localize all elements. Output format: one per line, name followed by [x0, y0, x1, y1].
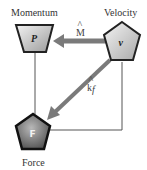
edge-v-f-elbow-line	[50, 62, 122, 130]
momentum-label: Momentum	[11, 7, 58, 18]
node-momentum-p[interactable]: P	[16, 25, 53, 52]
node-force-f[interactable]: F	[16, 114, 50, 149]
edge-v-f-arrow	[47, 60, 110, 120]
svg-text:M: M	[76, 27, 85, 38]
velocity-label: Velocity	[104, 7, 137, 18]
edge-label-m-hat: ^ M	[76, 19, 85, 38]
svg-text:v: v	[119, 37, 124, 48]
node-velocity-v[interactable]: v	[104, 22, 140, 60]
svg-text:f: f	[92, 84, 96, 95]
force-label: Force	[22, 157, 45, 168]
svg-text:P: P	[31, 33, 38, 44]
diagram-canvas: ^ M ^ k f Momentum Velocity Force P v F	[0, 0, 147, 170]
svg-text:F: F	[30, 129, 36, 139]
